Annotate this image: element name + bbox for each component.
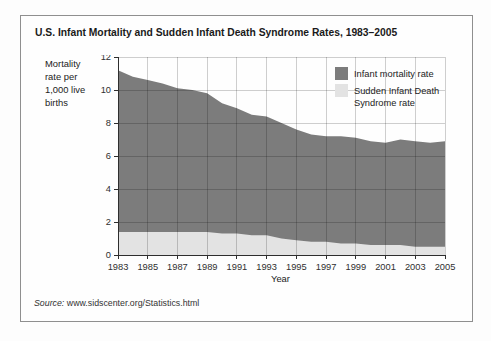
legend-label-sids-line1: Sudden Infant Death	[354, 86, 439, 96]
x-tick-label: 1991	[227, 262, 248, 272]
y-tick-label: 10	[101, 85, 111, 95]
legend-label-infant-mortality: Infant mortality rate	[354, 67, 434, 80]
page-root: { "figure": { "title": "U.S. Infant Mort…	[0, 0, 491, 341]
x-tick-label: 1993	[256, 262, 277, 272]
x-tick-label: 1999	[345, 262, 366, 272]
x-tick-label: 2005	[435, 262, 456, 272]
source-prefix: Source:	[34, 298, 64, 308]
x-tick-label: 2001	[375, 262, 396, 272]
x-tick-label: 1985	[137, 262, 158, 272]
legend: Infant mortality rate Sudden Infant Deat…	[335, 67, 439, 113]
y-tick-label: 0	[106, 250, 111, 260]
legend-swatch-sids-icon	[335, 84, 348, 97]
legend-item-infant-mortality: Infant mortality rate	[335, 67, 439, 80]
y-axis-label-line: Mortality	[45, 57, 85, 70]
y-axis-label: Mortality rate per 1,000 live births	[45, 57, 85, 109]
x-tick-label: 1995	[286, 262, 307, 272]
x-tick-label: 2003	[405, 262, 426, 272]
figure-title: U.S. Infant Mortality and Sudden Infant …	[35, 27, 397, 38]
y-tick-label: 2	[106, 217, 111, 227]
legend-item-sids: Sudden Infant Death Syndrome rate	[335, 84, 439, 109]
legend-label-sids: Sudden Infant Death Syndrome rate	[354, 84, 439, 109]
x-tick-label: 1989	[197, 262, 218, 272]
y-axis-label-line: 1,000 live	[45, 83, 85, 96]
legend-label-sids-line2: Syndrome rate	[354, 98, 415, 108]
x-tick-label: 1983	[108, 262, 129, 272]
y-tick-label: 12	[101, 55, 111, 62]
source-note: Source: www.sidscenter.org/Statistics.ht…	[34, 298, 199, 308]
y-tick-label: 8	[106, 118, 111, 128]
y-axis-label-line: births	[45, 96, 85, 109]
legend-swatch-infant-mortality-icon	[335, 67, 348, 80]
x-tick-label: 1987	[167, 262, 188, 272]
y-tick-label: 4	[106, 184, 111, 194]
figure-frame: U.S. Infant Mortality and Sudden Infant …	[20, 15, 473, 322]
y-tick-label: 6	[106, 151, 111, 161]
source-url: www.sidscenter.org/Statistics.html	[64, 298, 199, 308]
y-axis-label-line: rate per	[45, 70, 85, 83]
x-axis-title: Year	[117, 273, 444, 284]
x-tick-label: 1997	[316, 262, 337, 272]
